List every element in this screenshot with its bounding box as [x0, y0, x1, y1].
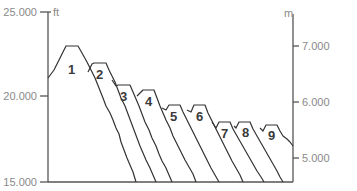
peak-label-2: 2	[96, 67, 103, 82]
right-tick-label-6000: 6.000	[302, 96, 330, 108]
peak-label-6: 6	[196, 109, 203, 124]
right-unit-label: m	[284, 7, 293, 19]
peak-label-9: 9	[268, 128, 275, 143]
profile-7	[212, 122, 264, 182]
left-tick-label-25000: 25.000	[3, 6, 37, 18]
profile-9	[260, 125, 293, 146]
left-unit-label: ft	[53, 6, 59, 18]
peak-label-4: 4	[145, 94, 153, 109]
profile-1	[48, 46, 136, 182]
peak-label-8: 8	[242, 125, 249, 140]
right-tick-label-5000: 5.000	[302, 152, 330, 164]
peak-label-7: 7	[221, 126, 228, 141]
peak-label-3: 3	[120, 89, 127, 104]
profile-chart: 25.000 20.000 15.000 ft m 7.000 6.000 5.…	[0, 0, 357, 191]
left-tick-label-15000: 15.000	[3, 176, 37, 188]
right-tick-label-7000: 7.000	[302, 40, 330, 52]
peak-label-5: 5	[170, 109, 177, 124]
peak-label-1: 1	[68, 62, 75, 77]
left-tick-label-20000: 20.000	[3, 90, 37, 102]
